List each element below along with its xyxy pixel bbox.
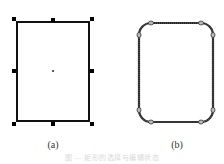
panel-b-rounded-rectangle	[137, 21, 215, 124]
panel-b-label: (b)	[171, 139, 183, 150]
center-point	[52, 70, 54, 72]
edit-nodes	[137, 21, 215, 124]
figure-caption: 图 — 矩形的选择与编辑状态	[65, 152, 160, 162]
figure-canvas	[0, 0, 224, 164]
panel-a-rectangle	[12, 17, 94, 126]
panel-a-label: (a)	[47, 139, 58, 150]
